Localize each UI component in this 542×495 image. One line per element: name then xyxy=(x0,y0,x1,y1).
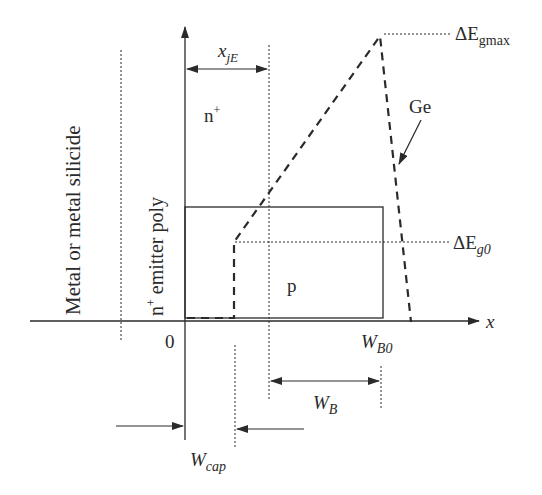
ge-pointer-arrow xyxy=(399,120,421,164)
n-plus-label: n+ xyxy=(204,103,221,126)
wcap-label: Wcap xyxy=(190,449,226,474)
origin-label: 0 xyxy=(165,331,175,352)
xjE-label: xjE xyxy=(217,40,238,65)
delta-eg0-label: ΔEg0 xyxy=(453,232,491,257)
x-axis-label: x xyxy=(485,311,495,332)
base-region-box xyxy=(185,207,383,318)
wb0-label: WB0 xyxy=(361,331,392,356)
ge-label: Ge xyxy=(409,96,431,117)
p-region-label: p xyxy=(287,275,297,296)
ge-profile-curve xyxy=(187,36,411,322)
sige-profile-diagram: xjE n+ p ΔEgmax ΔEg0 Ge x 0 WB0 WB Wcap … xyxy=(0,0,542,495)
metal-silicide-label: Metal or metal silicide xyxy=(61,125,85,315)
emitter-poly-label: n+ emitter poly xyxy=(144,197,168,316)
wb-label: WB xyxy=(313,392,338,417)
delta-egmax-label: ΔEgmax xyxy=(455,23,510,48)
